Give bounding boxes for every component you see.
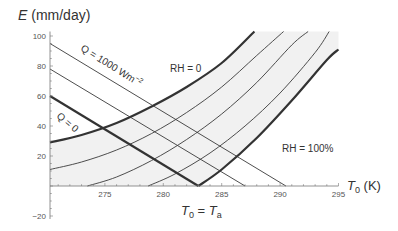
- x-tick-label: 275: [98, 190, 112, 199]
- annotation-rh0: RH = 0: [170, 63, 202, 74]
- annotation-q0: Q = 0: [55, 110, 81, 135]
- y-axis-label: E (mm/day): [18, 7, 90, 23]
- x-tick-label: 290: [273, 190, 287, 199]
- y-tick-label: 80: [37, 62, 46, 71]
- x-tick-label: 280: [157, 190, 171, 199]
- y-tick-label: 100: [33, 32, 47, 41]
- y-tick-label: −20: [32, 212, 46, 221]
- annotation-rh100: RH = 100%: [282, 143, 334, 154]
- chart: −2020406080100 275280285290295 E (mm/day…: [0, 0, 398, 231]
- y-tick-label: 40: [37, 122, 46, 131]
- y-tick-label: 20: [37, 152, 46, 161]
- y-tick-label: 60: [37, 92, 46, 101]
- annotation-t0-equals-ta: T0 = Ta: [181, 203, 222, 220]
- annotation-q1000: Q = 1000 Wm−2: [79, 42, 145, 89]
- x-tick-label: 295: [332, 190, 346, 199]
- x-axis-label: T0 (K): [347, 178, 381, 195]
- x-tick-label: 285: [215, 190, 229, 199]
